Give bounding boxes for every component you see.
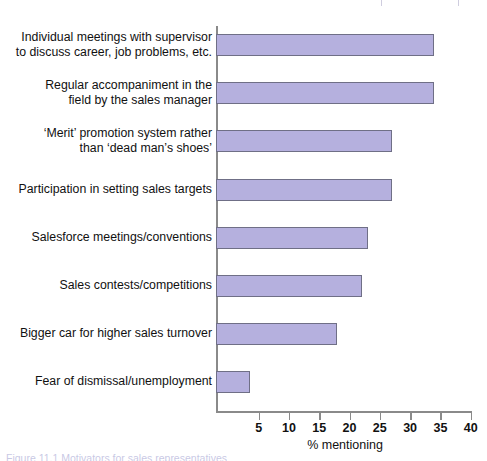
bar-category-label: Bigger car for higher sales turnover	[12, 326, 212, 341]
bar-row: Bigger car for higher sales turnover	[0, 315, 487, 361]
x-axis-tick	[471, 412, 473, 420]
bar	[216, 227, 368, 249]
bar-category-label: Salesforce meetings/conventions	[12, 230, 212, 245]
page-tab-fragment	[381, 0, 487, 6]
bar-category-label: ‘Merit’ promotion system rather than ‘de…	[12, 126, 212, 156]
bar	[216, 34, 434, 56]
bar-row: Regular accompaniment in the field by th…	[0, 74, 487, 120]
bar-chart: Individual meetings with supervisor to d…	[0, 12, 487, 432]
bar-row: Salesforce meetings/conventions	[0, 219, 487, 265]
bar	[216, 179, 392, 201]
x-axis-title: % mentioning	[216, 438, 474, 452]
bar-row: Fear of dismissal/unemployment	[0, 363, 487, 409]
x-axis-tick	[410, 412, 412, 420]
bar-category-label: Fear of dismissal/unemployment	[12, 374, 212, 389]
x-axis-tick-label: 35	[425, 421, 455, 435]
x-axis-line	[216, 411, 472, 413]
x-axis-tick-label: 10	[274, 421, 304, 435]
x-axis-tick-label: 20	[335, 421, 365, 435]
x-axis-tick-label: 40	[456, 421, 486, 435]
bar-category-label: Regular accompaniment in the field by th…	[12, 78, 212, 108]
x-axis-tick-label: 15	[304, 421, 334, 435]
bar-row: ‘Merit’ promotion system rather than ‘de…	[0, 122, 487, 168]
bar	[216, 130, 392, 152]
bar	[216, 275, 362, 297]
x-axis-tick-label: 5	[244, 421, 274, 435]
x-axis-tick	[319, 412, 321, 420]
x-axis-tick	[350, 412, 352, 420]
bar	[216, 82, 434, 104]
bar	[216, 323, 337, 345]
x-axis-tick	[440, 412, 442, 420]
x-axis-tick	[380, 412, 382, 420]
bar-row: Participation in setting sales targets	[0, 171, 487, 217]
x-axis-tick	[259, 412, 261, 420]
bar-category-label: Participation in setting sales targets	[12, 182, 212, 197]
bar	[216, 371, 250, 393]
bar-category-label: Individual meetings with supervisor to d…	[12, 30, 212, 60]
x-axis-tick-label: 30	[395, 421, 425, 435]
bar-row: Sales contests/competitions	[0, 267, 487, 313]
tab-outline-shape	[381, 0, 459, 6]
bar-row: Individual meetings with supervisor to d…	[0, 26, 487, 72]
x-axis-tick	[289, 412, 291, 420]
bar-category-label: Sales contests/competitions	[12, 278, 212, 293]
x-axis-tick-label: 25	[365, 421, 395, 435]
figure-caption: Figure 11.1 Motivators for sales represe…	[6, 452, 466, 461]
